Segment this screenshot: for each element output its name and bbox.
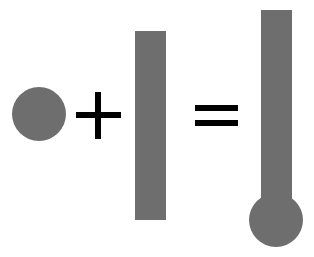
plus-operator-icon	[76, 92, 121, 139]
thermometer-shape	[249, 10, 303, 247]
equals-operator-icon	[195, 105, 238, 126]
circle-shape	[12, 87, 66, 141]
shape-equation-diagram	[0, 0, 314, 257]
rectangle-shape	[135, 31, 166, 220]
